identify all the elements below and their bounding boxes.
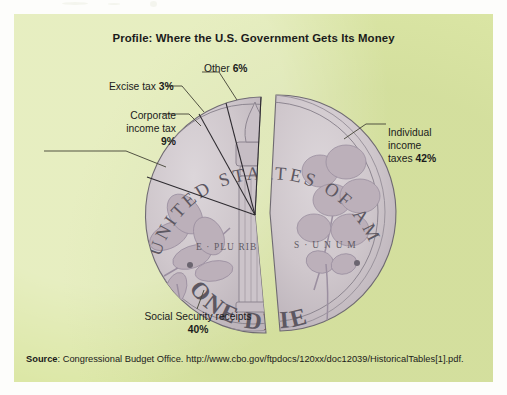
source-note: Source: Congressional Budget Office. htt… (26, 353, 486, 366)
scan-artifact (108, 3, 120, 5)
leader-line-other (202, 72, 237, 100)
label-social-line1: Social Security receipts (144, 311, 251, 322)
scan-artifact (62, 2, 88, 5)
label-corporate-value: 9% (161, 136, 176, 147)
label-other-value: 6% (233, 63, 248, 74)
label-individual-value: 42% (415, 153, 436, 164)
label-other: Other 6% (204, 62, 248, 75)
label-excise: Excise tax 3% (109, 80, 174, 93)
label-corporate-line2: income tax (126, 123, 176, 134)
label-excise-value: 3% (159, 81, 174, 92)
label-corporate: Corporate income tax 9% (84, 109, 176, 149)
coin-dot-right (354, 260, 360, 266)
figure-root: Profile: Where the U.S. Government Gets … (0, 0, 507, 395)
label-other-text: Other (204, 63, 233, 74)
coin-motto-right: S · U N U M (294, 240, 357, 250)
coin-motto-left: E · PLU RIB (196, 242, 257, 252)
chart-panel: Profile: Where the U.S. Government Gets … (14, 14, 493, 382)
source-prefix: Source (26, 354, 58, 364)
source-text: : Congressional Budget Office. http://ww… (58, 354, 464, 364)
coin-dot-left (187, 262, 193, 268)
label-social: Social Security receipts 40% (110, 310, 286, 336)
label-individual: Individual income taxes 42% (388, 126, 484, 166)
label-individual-line2: income (388, 140, 421, 151)
leader-line-corporate-long (44, 151, 166, 167)
label-corporate-line1: Corporate (130, 110, 176, 121)
label-excise-text: Excise tax (109, 81, 159, 92)
label-individual-line3: taxes (388, 153, 415, 164)
label-social-value: 40% (188, 324, 209, 335)
label-individual-line1: Individual (388, 127, 432, 138)
scan-artifact (150, 1, 157, 7)
